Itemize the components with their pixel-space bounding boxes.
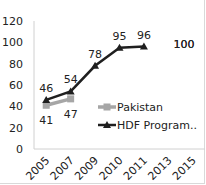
data-label: 95 (113, 30, 127, 43)
y-tick-label: 120 (2, 15, 23, 28)
data-label: 100 (174, 38, 195, 51)
data-label: 46 (39, 82, 53, 95)
x-tick-label: 2011 (121, 154, 150, 183)
y-tick-label: 100 (2, 36, 23, 49)
data-label: 54 (64, 73, 78, 86)
data-label: 96 (137, 29, 151, 42)
x-tick-label: 2010 (97, 154, 126, 183)
x-tick-label: 2005 (23, 154, 52, 183)
legend-label: HDF Program.. (117, 119, 197, 132)
data-label: 78 (88, 48, 102, 61)
x-tick-label: 2007 (48, 154, 77, 183)
square-marker-icon (67, 95, 74, 102)
y-tick-label: 60 (9, 79, 23, 92)
x-tick-label: 2013 (145, 154, 174, 183)
x-tick-label: 2015 (170, 154, 199, 183)
y-tick-label: 40 (9, 100, 23, 113)
legend: PakistanHDF Program.. (98, 101, 197, 132)
x-tick-label: 2009 (72, 154, 101, 183)
y-tick-label: 20 (9, 122, 23, 135)
legend-square-icon (104, 104, 111, 111)
y-tick-label: 80 (9, 58, 23, 71)
data-label: 41 (39, 114, 53, 127)
line-chart: 0204060801001202005200720092010201120132… (0, 0, 206, 185)
data-label: 47 (64, 108, 78, 121)
y-tick-label: 0 (16, 143, 23, 156)
legend-label: Pakistan (117, 101, 163, 114)
